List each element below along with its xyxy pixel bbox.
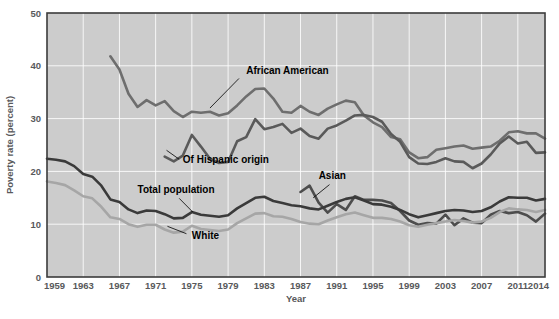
y-tick-label: 50 xyxy=(30,8,41,19)
y-axis-title: Poverty rate (percent) xyxy=(4,96,15,194)
x-tick-label: 2014 xyxy=(528,280,550,291)
x-tick-label: 2011 xyxy=(508,280,529,291)
series-annotation-white: White xyxy=(192,230,220,241)
x-axis-title: Year xyxy=(286,293,306,304)
y-tick-label: 0 xyxy=(36,272,41,283)
x-tick-label: 2007 xyxy=(471,280,492,291)
series-annotation-asian: Asian xyxy=(319,170,346,181)
y-tick-label: 20 xyxy=(30,166,41,177)
x-tick-label: 1983 xyxy=(254,280,275,291)
series-annotation-of-hispanic-origin: Of Hispanic origin xyxy=(183,154,269,165)
x-axis-tick-labels: 1959196319671971197519791983198719911995… xyxy=(44,280,550,291)
y-tick-label: 40 xyxy=(30,60,41,71)
series-annotation-total-population: Total population xyxy=(138,184,215,195)
y-tick-label: 30 xyxy=(30,113,41,124)
series-annotation-african-american: African American xyxy=(246,65,328,76)
x-tick-label: 1967 xyxy=(109,280,130,291)
x-tick-label: 1963 xyxy=(73,280,94,291)
x-tick-label: 1987 xyxy=(290,280,311,291)
x-tick-label: 1995 xyxy=(362,280,384,291)
x-tick-label: 1959 xyxy=(44,280,65,291)
x-tick-label: 1979 xyxy=(218,280,239,291)
poverty-rate-chart: 1959196319671971197519791983198719911995… xyxy=(0,0,559,319)
x-tick-label: 1971 xyxy=(145,280,167,291)
x-tick-label: 1999 xyxy=(399,280,420,291)
chart-canvas: 1959196319671971197519791983198719911995… xyxy=(0,0,559,319)
x-tick-label: 1991 xyxy=(326,280,348,291)
x-tick-label: 2003 xyxy=(435,280,456,291)
plot-area-background xyxy=(47,13,545,277)
y-tick-label: 10 xyxy=(30,219,41,230)
x-tick-label: 1975 xyxy=(181,280,203,291)
